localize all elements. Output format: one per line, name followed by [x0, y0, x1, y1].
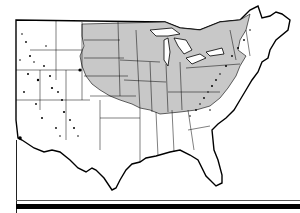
thick-rule [16, 204, 300, 209]
us-map [0, 0, 300, 213]
frame-left-edge [16, 140, 17, 213]
thin-rule [16, 200, 300, 201]
